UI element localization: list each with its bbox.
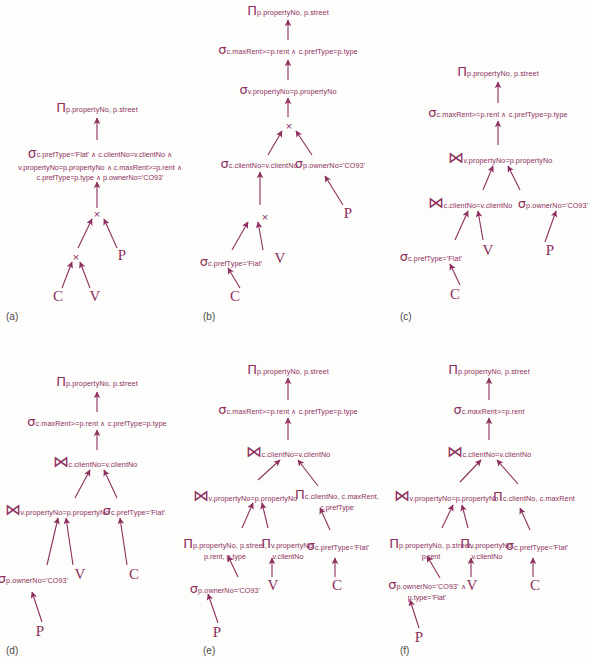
node-project-root[interactable]: Πp.propertyNo, p.street [56, 98, 138, 116]
node-relation-C[interactable]: C [530, 577, 540, 594]
project-symbol: Π [493, 489, 503, 504]
select-line-2: v.propertyNo=p.propertyNo ∧ c.maxRent>=p… [18, 163, 181, 173]
node-join-propertyno[interactable]: ⋈v.propertyNo=p.propertyNo [394, 487, 499, 505]
select-symbol: σ [388, 577, 396, 592]
node-select-ownerno[interactable]: σp.ownerNo='CO93' [190, 579, 260, 597]
node-project-property[interactable]: Πp.propertyNo, p.street, p.rent, p.type [183, 534, 267, 562]
node-cartesian-upper[interactable]: × [94, 208, 100, 221]
select-line-1: σc.prefType='Flat' ∧ c.clientNo=v.client… [18, 144, 181, 163]
select-symbol: σ [428, 105, 436, 120]
node-select-ownerno[interactable]: σp.ownerNo='CO93' ∧ p.type='Flat' [388, 575, 466, 603]
project-symbol: Π [389, 536, 399, 551]
project-symbol: Π [457, 64, 467, 79]
node-join-clientno[interactable]: ⋈c.clientNo=v.clientNo [246, 443, 331, 461]
node-relation-C[interactable]: C [332, 577, 342, 594]
node-select-maxrent[interactable]: σc.maxRent>=p.rent ∧ c.prefType=p.type [218, 400, 357, 418]
node-cartesian-upper[interactable]: × [286, 120, 292, 133]
node-select-preftype[interactable]: σc.prefType='Flat' [307, 536, 369, 554]
node-cartesian-lower[interactable]: × [262, 211, 268, 224]
join-symbol: ⋈ [246, 443, 262, 460]
node-relation-V[interactable]: V [268, 577, 279, 594]
node-project-client[interactable]: Πc.clientNo, c.maxRent, c.prefType [295, 485, 379, 513]
node-project-root[interactable]: Πp.propertyNo, p.street [56, 372, 138, 390]
node-relation-P[interactable]: P [118, 247, 126, 264]
node-select-ownerno[interactable]: σp.ownerNo='CO93' [0, 569, 68, 587]
node-select-maxrent[interactable]: σc.maxRent>=p.rent ∧ c.prefType=p.type [218, 40, 357, 58]
node-select-preftype[interactable]: σc.prefType='Flat' [103, 501, 165, 519]
panel-label-c: (c) [400, 311, 412, 322]
node-project-client[interactable]: Πc.clientNo, c.maxRent [493, 487, 575, 505]
select-symbol: σ [506, 538, 514, 553]
select-symbol: σ [218, 42, 226, 57]
node-join-clientno[interactable]: ⋈c.clientNo=v.clientNo [447, 443, 532, 461]
node-relation-V[interactable]: V [90, 288, 101, 305]
node-select-propertyno[interactable]: σv.propertyNo=p.propertyNo [239, 80, 336, 98]
node-relation-C[interactable]: C [53, 288, 63, 305]
node-select-preftype[interactable]: σc.prefType='Flat' [506, 536, 568, 554]
node-project-root[interactable]: Πp.propertyNo, p.street [247, 1, 329, 19]
select-symbol: σ [200, 254, 208, 269]
panel-label-b: (b) [203, 311, 215, 322]
node-relation-P[interactable]: P [36, 623, 44, 640]
join-symbol: ⋈ [193, 487, 209, 504]
project-symbol: Π [247, 362, 257, 377]
join-symbol: ⋈ [428, 194, 444, 211]
node-select-predicate[interactable]: σc.prefType='Flat' ∧ c.clientNo=v.client… [18, 144, 181, 182]
select-symbol: σ [307, 538, 315, 553]
node-relation-C[interactable]: C [230, 288, 240, 305]
join-symbol: ⋈ [448, 149, 464, 166]
node-select-preftype[interactable]: σc.prefType='Flat' [400, 247, 462, 265]
project-symbol: Π [460, 536, 470, 551]
node-project-root[interactable]: Πp.propertyNo, p.street [247, 360, 329, 378]
select-symbol: σ [103, 503, 111, 518]
node-select-ownerno[interactable]: σp.ownerNo='CO93' [295, 154, 365, 172]
node-project-root[interactable]: Πp.propertyNo, p.street [457, 62, 539, 80]
project-symbol: Π [183, 536, 193, 551]
node-relation-V[interactable]: V [275, 250, 286, 267]
panel-label-d: (d) [6, 645, 18, 656]
project-symbol: Π [56, 374, 66, 389]
node-relation-C[interactable]: C [450, 286, 460, 303]
node-relation-P[interactable]: P [344, 205, 352, 222]
node-cartesian-lower[interactable]: × [73, 251, 79, 264]
project-symbol: Π [247, 3, 257, 18]
node-project-root[interactable]: Πp.propertyNo, p.street [448, 360, 530, 378]
node-select-maxrent[interactable]: σc.maxRent>=p.rent ∧ c.prefType=p.type [428, 103, 567, 121]
join-symbol: ⋈ [5, 501, 21, 518]
node-relation-P[interactable]: P [213, 624, 221, 641]
join-symbol: ⋈ [53, 453, 69, 470]
node-select-ownerno[interactable]: σp.ownerNo='CO93' [518, 194, 588, 212]
node-join-clientno[interactable]: ⋈c.clientNo=v.clientNo [428, 194, 513, 212]
project-symbol: Π [295, 487, 305, 502]
node-relation-V[interactable]: V [75, 566, 86, 583]
node-select-maxrent[interactable]: σc.maxRent>=p.rent ∧ c.prefType=p.type [27, 412, 166, 430]
select-symbol: σ [27, 414, 35, 429]
panel-label-f: (f) [400, 645, 409, 656]
panel-label-a: (a) [6, 311, 18, 322]
select-line-3: c.prefType=p.type ∧ p.ownerNo='CO93' [18, 172, 181, 182]
node-select-maxrent[interactable]: σc.maxRent>=p.rent [453, 400, 524, 418]
node-join-clientno[interactable]: ⋈c.clientNo=v.clientNo [53, 453, 138, 471]
panel-label-e: (e) [203, 645, 215, 656]
node-relation-V[interactable]: V [467, 577, 478, 594]
node-subscript: p.propertyNo, p.street [66, 105, 138, 114]
node-join-propertyno[interactable]: ⋈v.propertyNo=p.propertyNo [448, 149, 553, 167]
node-join-propertyno[interactable]: ⋈v.propertyNo=p.propertyNo [5, 501, 110, 519]
join-symbol: ⋈ [394, 487, 410, 504]
join-symbol: ⋈ [447, 443, 463, 460]
project-symbol: Π [448, 362, 458, 377]
node-relation-P[interactable]: P [546, 242, 554, 259]
node-relation-V[interactable]: V [483, 242, 494, 259]
select-symbol: σ [218, 402, 226, 417]
node-relation-P[interactable]: P [415, 629, 423, 646]
node-select-clientno[interactable]: σc.clientNo=v.clientNo [220, 154, 297, 172]
project-symbol: Π [56, 100, 66, 115]
node-relation-C[interactable]: C [129, 566, 139, 583]
node-select-preftype[interactable]: σc.prefType='Flat' [200, 252, 262, 270]
project-symbol: Π [261, 536, 271, 551]
select-symbol: σ [400, 249, 408, 264]
node-join-propertyno[interactable]: ⋈v.propertyNo=p.propertyNo [193, 487, 298, 505]
